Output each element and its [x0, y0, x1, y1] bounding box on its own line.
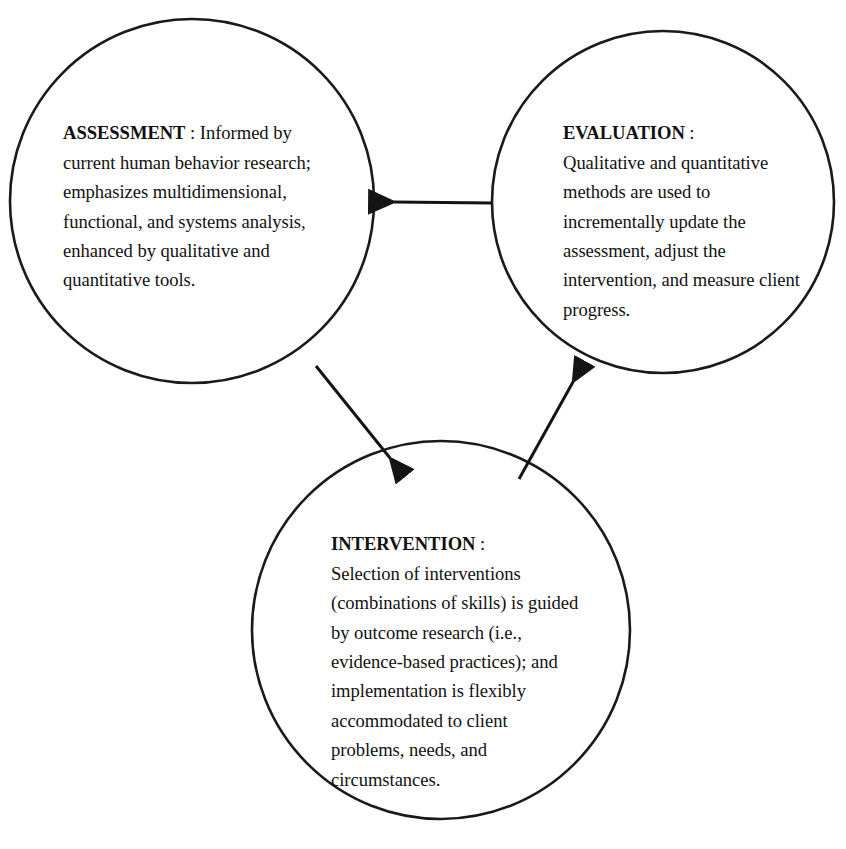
arrow-assessment-to-intervention	[316, 366, 390, 458]
assessment-separator: :	[185, 122, 199, 143]
arrow-evaluation-to-assessment	[394, 202, 492, 203]
intervention-separator: :	[475, 533, 485, 554]
assessment-title: ASSESSMENT	[63, 122, 185, 143]
intervention-node-text: INTERVENTION : Selection of intervention…	[331, 500, 579, 794]
evaluation-node-text: EVALUATION : Qualitative and quantitativ…	[563, 89, 813, 324]
assessment-body: Informed by current human behavior resea…	[63, 122, 311, 290]
assessment-node-text: ASSESSMENT : Informed by current human b…	[63, 89, 333, 295]
evaluation-body: Qualitative and quantitative methods are…	[563, 152, 800, 320]
intervention-title: INTERVENTION	[331, 533, 475, 554]
intervention-body: Selection of interventions (combinations…	[331, 563, 578, 790]
diagram-canvas: ASSESSMENT : Informed by current human b…	[0, 0, 846, 849]
evaluation-separator: :	[685, 122, 695, 143]
arrow-intervention-to-evaluation	[519, 382, 573, 479]
evaluation-title: EVALUATION	[563, 122, 685, 143]
